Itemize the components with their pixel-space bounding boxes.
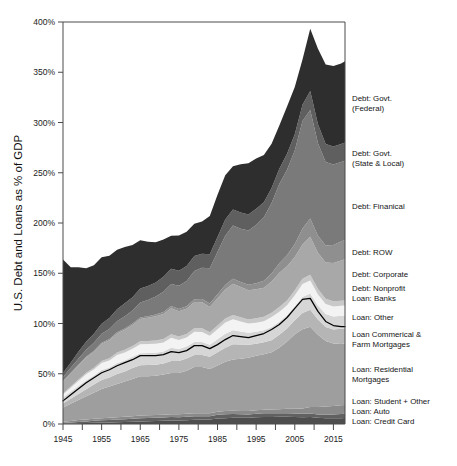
legend-label: Debt: Nonprofit bbox=[352, 284, 406, 293]
x-tick-label: 1945 bbox=[54, 434, 73, 444]
x-axis-ticks: 19451955196519751985199520052015 bbox=[54, 424, 344, 444]
legend-label: Mortgages bbox=[352, 375, 389, 384]
x-tick-label: 1955 bbox=[92, 434, 111, 444]
legend-label: Debt: ROW bbox=[352, 248, 393, 257]
y-tick-label: 50% bbox=[38, 369, 55, 379]
stacked-area-chart: 0%50%100%150%200%250%300%350%400% 194519… bbox=[0, 0, 457, 466]
chart-bands bbox=[63, 29, 345, 424]
x-tick-label: 1985 bbox=[208, 434, 227, 444]
y-tick-label: 150% bbox=[33, 268, 55, 278]
x-tick-label: 1975 bbox=[169, 434, 188, 444]
legend-label: Loan Commerical & bbox=[352, 330, 422, 339]
legend-label: (State & Local) bbox=[352, 159, 405, 168]
y-tick-label: 200% bbox=[33, 218, 55, 228]
x-tick-label: 1995 bbox=[247, 434, 266, 444]
chart-legend: Debt: Govt.(Federal)Debt: Govt.(State & … bbox=[352, 94, 430, 426]
x-tick-label: 2015 bbox=[324, 434, 343, 444]
x-tick-label: 1965 bbox=[131, 434, 150, 444]
legend-label: Loan: Credit Card bbox=[352, 417, 414, 426]
x-tick-label: 2005 bbox=[285, 434, 304, 444]
legend-label: Debt: Govt. bbox=[352, 94, 392, 103]
legend-label: (Federal) bbox=[352, 104, 384, 113]
y-tick-label: 400% bbox=[33, 17, 55, 27]
legend-label: Debt: Finanical bbox=[352, 202, 405, 211]
y-tick-label: 350% bbox=[33, 67, 55, 77]
legend-label: Debt: Govt. bbox=[352, 149, 392, 158]
y-tick-label: 0% bbox=[43, 419, 56, 429]
legend-label: Debt: Corporate bbox=[352, 270, 409, 279]
y-tick-label: 300% bbox=[33, 118, 55, 128]
legend-label: Loan: Banks bbox=[352, 294, 396, 303]
y-axis-ticks: 0%50%100%150%200%250%300%350%400% bbox=[33, 17, 63, 429]
y-tick-label: 100% bbox=[33, 319, 55, 329]
legend-label: Loan: Auto bbox=[352, 407, 390, 416]
legend-label: Farm Mortgages bbox=[352, 340, 410, 349]
legend-label: Loan: Student + Other bbox=[352, 397, 430, 406]
y-tick-label: 250% bbox=[33, 168, 55, 178]
legend-label: Loan: Residential bbox=[352, 365, 413, 374]
legend-label: Loan: Other bbox=[352, 313, 394, 322]
figure-container: 0%50%100%150%200%250%300%350%400% 194519… bbox=[0, 0, 457, 466]
y-axis-title: U.S. Debt and Loans as % of GDP bbox=[12, 134, 24, 311]
